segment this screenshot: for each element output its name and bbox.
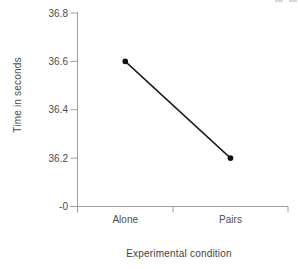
y-tick-label: 36.4 [49,104,69,115]
y-tick-label: 36.6 [49,56,69,67]
x-category-label: Alone [112,214,138,225]
x-axis-title: Experimental condition [126,248,232,259]
data-line [125,61,230,158]
plot-area: 36.836.636.436.2-0AlonePairs [0,0,298,269]
y-tick-label: -0 [59,201,68,212]
line-chart-figure: Time in seconds 36.836.636.436.2-0AloneP… [0,0,298,269]
cropped-edge-artifact [275,0,283,2]
data-point-marker [122,59,128,65]
cropped-edge-artifact [289,0,297,2]
x-category-label: Pairs [219,214,242,225]
data-point-marker [228,155,234,161]
y-tick-label: 36.8 [49,8,69,19]
y-tick-label: 36.2 [49,153,69,164]
